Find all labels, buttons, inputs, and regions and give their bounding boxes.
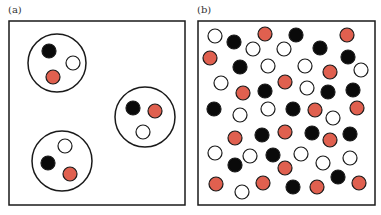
black-particle bbox=[42, 44, 56, 58]
red-particle bbox=[352, 176, 366, 190]
black-particle bbox=[343, 127, 357, 141]
red-particle bbox=[46, 70, 60, 84]
black-particle bbox=[41, 156, 55, 170]
red-particle bbox=[323, 65, 337, 79]
black-particle bbox=[266, 148, 280, 162]
red-particle bbox=[350, 101, 364, 115]
black-particle bbox=[321, 85, 335, 99]
white-particle bbox=[294, 147, 308, 161]
black-particle bbox=[346, 83, 360, 97]
black-particle bbox=[313, 41, 327, 55]
black-particle bbox=[289, 28, 303, 42]
red-particle bbox=[236, 86, 250, 100]
red-particle bbox=[310, 180, 324, 194]
black-particle bbox=[227, 35, 241, 49]
white-particle bbox=[277, 42, 291, 56]
red-particle bbox=[256, 176, 270, 190]
red-particle bbox=[278, 75, 292, 89]
red-particle bbox=[228, 131, 242, 145]
red-particle bbox=[278, 125, 292, 139]
black-particle bbox=[331, 170, 345, 184]
black-particle bbox=[286, 102, 300, 116]
black-particle bbox=[233, 60, 247, 74]
red-particle bbox=[148, 104, 162, 118]
red-particle bbox=[323, 133, 337, 147]
red-particle bbox=[209, 177, 223, 191]
diagram-canvas bbox=[0, 0, 381, 215]
white-particle bbox=[208, 29, 222, 43]
red-particle bbox=[278, 161, 292, 175]
black-particle bbox=[126, 101, 140, 115]
white-particle bbox=[208, 146, 222, 160]
red-particle bbox=[203, 51, 217, 65]
white-particle bbox=[261, 59, 275, 73]
black-particle bbox=[258, 84, 272, 98]
white-particle bbox=[235, 185, 249, 199]
red-particle bbox=[258, 27, 272, 41]
white-particle bbox=[214, 76, 228, 90]
black-particle bbox=[305, 126, 319, 140]
black-particle bbox=[341, 50, 355, 64]
white-particle bbox=[58, 139, 72, 153]
white-particle bbox=[66, 56, 80, 70]
white-particle bbox=[343, 151, 357, 165]
white-particle bbox=[246, 42, 260, 56]
white-particle bbox=[300, 81, 314, 95]
white-particle bbox=[326, 111, 340, 125]
white-particle bbox=[354, 63, 368, 77]
red-particle bbox=[308, 103, 322, 117]
white-particle bbox=[243, 149, 257, 163]
white-particle bbox=[316, 156, 330, 170]
black-particle bbox=[286, 180, 300, 194]
white-particle bbox=[233, 108, 247, 122]
black-particle bbox=[207, 102, 221, 116]
black-particle bbox=[228, 158, 242, 172]
white-particle bbox=[298, 59, 312, 73]
red-particle bbox=[63, 167, 77, 181]
white-particle bbox=[136, 125, 150, 139]
red-particle bbox=[340, 28, 354, 42]
white-particle bbox=[261, 102, 275, 116]
black-particle bbox=[255, 128, 269, 142]
